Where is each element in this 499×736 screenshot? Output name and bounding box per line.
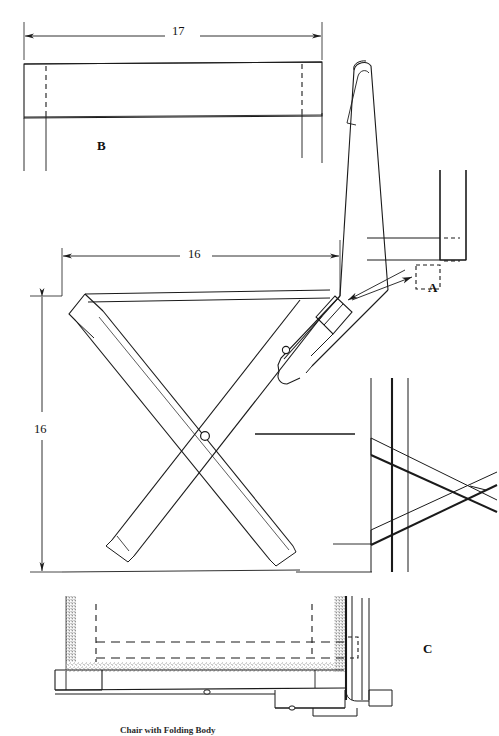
part-label-b: B <box>97 139 106 152</box>
view-b-top-rail <box>24 22 322 171</box>
dimension-label-seat-height: 16 <box>34 423 47 436</box>
view-c-seat-section <box>55 596 392 716</box>
part-label-a: A <box>428 281 438 294</box>
technical-drawing-canvas <box>0 0 499 736</box>
view-a-joint-detail <box>352 170 466 300</box>
drawing-sheet: 17 B 16 16 A C Chair with Folding Body <box>0 0 499 736</box>
drawing-caption: Chair with Folding Body <box>120 726 216 735</box>
dimension-label-back-width: 17 <box>172 25 185 38</box>
chair-back-post <box>340 61 388 296</box>
dimension-label-seat-depth: 16 <box>188 248 201 261</box>
view-end-crossed-legs <box>371 378 497 572</box>
view-side-elevation <box>30 240 405 572</box>
part-label-c: C <box>423 642 433 655</box>
